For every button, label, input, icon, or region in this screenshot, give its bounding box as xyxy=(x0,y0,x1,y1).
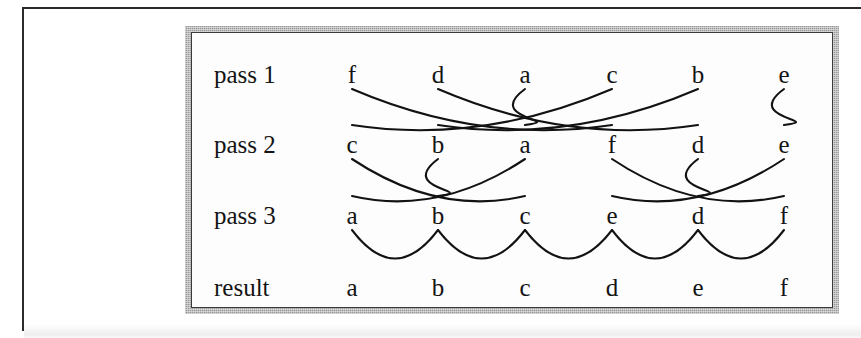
cell-pass2-col4: f xyxy=(595,128,629,162)
cell-pass1-col6: e xyxy=(767,58,801,92)
cell-pass3-col2: b xyxy=(421,199,455,233)
cell-result-col6: f xyxy=(767,271,801,305)
row-label-pass3: pass 3 xyxy=(214,199,334,233)
cell-pass1-col1: f xyxy=(335,58,369,92)
cell-pass2-col5: d xyxy=(681,128,715,162)
row-label-pass2: pass 2 xyxy=(214,128,334,162)
sorting-passes-diagram: pass 1fdacbepass 2cbafdepass 3abcedfresu… xyxy=(192,33,832,307)
cell-result-col5: e xyxy=(681,271,715,305)
diagram-row-pass2: pass 2cbafde xyxy=(192,128,832,162)
page-rule-left xyxy=(22,7,24,331)
diagram-row-pass3: pass 3abcedf xyxy=(192,199,832,233)
cell-result-col3: c xyxy=(508,271,542,305)
cell-pass2-col1: c xyxy=(335,128,369,162)
cell-pass3-col3: c xyxy=(508,199,542,233)
page-bottom-edge xyxy=(24,324,861,338)
cell-pass2-col6: e xyxy=(767,128,801,162)
cell-pass3-col1: a xyxy=(335,199,369,233)
row-label-result: result xyxy=(214,271,334,305)
cell-pass2-col2: b xyxy=(421,128,455,162)
cell-pass1-col4: c xyxy=(595,58,629,92)
cell-result-col1: a xyxy=(335,271,369,305)
cell-result-col2: b xyxy=(421,271,455,305)
cell-pass2-col3: a xyxy=(508,128,542,162)
cell-result-col4: d xyxy=(595,271,629,305)
page-sheet: pass 1fdacbepass 2cbafdepass 3abcedfresu… xyxy=(0,0,861,338)
cell-pass1-col3: a xyxy=(508,58,542,92)
figure-inner-panel: pass 1fdacbepass 2cbafdepass 3abcedfresu… xyxy=(191,32,833,308)
cell-pass1-col5: b xyxy=(681,58,715,92)
cell-pass3-col5: d xyxy=(681,199,715,233)
cell-pass3-col4: e xyxy=(595,199,629,233)
diagram-row-pass1: pass 1fdacbe xyxy=(192,58,832,92)
page-rule-top xyxy=(22,7,861,9)
row-label-pass1: pass 1 xyxy=(214,58,334,92)
cell-pass1-col2: d xyxy=(421,58,455,92)
figure-frame: pass 1fdacbepass 2cbafdepass 3abcedfresu… xyxy=(185,26,839,314)
cell-pass3-col6: f xyxy=(767,199,801,233)
diagram-row-result: resultabcdef xyxy=(192,271,832,305)
